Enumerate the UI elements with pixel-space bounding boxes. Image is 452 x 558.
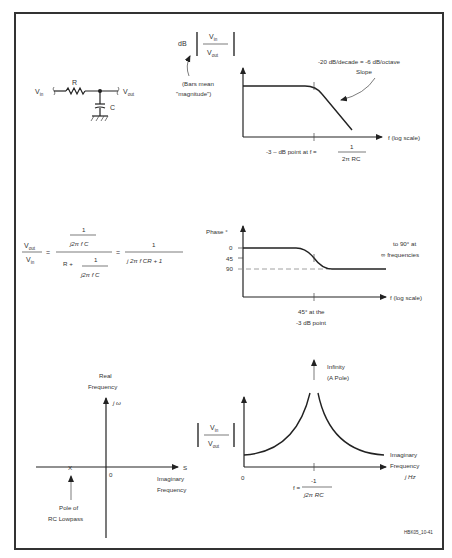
s-plane-title-line2: Frequency — [88, 383, 118, 390]
pole-x-line2: Frequency — [390, 462, 420, 469]
jw-label: j ω — [112, 399, 121, 406]
rc-lowpass-diagram: Vin R Vout C dB Vin Vout (Bars mean "mag… — [0, 0, 452, 558]
vout-label: Vout — [123, 88, 135, 97]
mid-den-den: j2π f C — [80, 271, 100, 278]
pole-x-line3: j Hz — [404, 473, 417, 480]
vin-label: Vin — [35, 88, 44, 97]
bars-note-line2: "magnitude") — [176, 90, 211, 97]
corner-den: 2π RC — [342, 155, 361, 162]
slope-arrow-icon — [341, 78, 375, 100]
equals-sign: = — [46, 249, 50, 256]
phase-y-label: Phase ° — [206, 228, 228, 235]
ratio-numerator: Vin — [209, 33, 218, 42]
phase-x-label: f (log scale) — [390, 294, 422, 301]
phase-note-line1: to 90° at — [393, 240, 416, 247]
infinity-line2: (A Pole) — [327, 374, 349, 381]
s-label: S — [183, 464, 187, 471]
phase-corner-line1: 45° at the — [298, 308, 325, 315]
phase-tick-90: 90 — [226, 265, 233, 272]
pole-label-line1: Pole of — [59, 504, 79, 511]
lhs-denominator: Vin — [26, 256, 35, 265]
pole-x-line1: Imaginary — [390, 451, 418, 458]
phase-tick-0: 0 — [229, 244, 233, 251]
mid-num-bottom: j2π f C — [69, 240, 89, 247]
phase-plot: Phase ° 0 45 90 to 90° at ∞ frequencies … — [206, 226, 422, 326]
corner-label: -3 – dB point at f = — [266, 148, 317, 155]
magnitude-response-curve — [243, 86, 352, 130]
lhs-numerator: Vout — [24, 242, 36, 251]
phase-tick-45: 45 — [226, 255, 233, 262]
pole-curve-left — [244, 393, 310, 455]
pole-num: -1 — [311, 477, 317, 484]
bars-note-line1: (Bars mean — [182, 80, 215, 87]
pole-curve-right — [318, 393, 384, 455]
pole-marker-icon: X — [68, 464, 72, 471]
pole-f-label: f = — [293, 484, 300, 491]
phase-corner-line2: -3 dB point — [296, 319, 326, 326]
magnitude-plot: dB Vin Vout (Bars mean "magnitude") -20 … — [176, 32, 420, 162]
db-label: dB — [178, 40, 187, 47]
s-plane-x-line1: Imaginary — [157, 475, 185, 482]
phase-note-line2: ∞ frequencies — [381, 251, 419, 258]
transfer-equation: Vout Vin = 1 j2π f C R + 1 j2π f C = 1 j… — [22, 226, 183, 278]
resistor-icon — [66, 88, 85, 94]
equals-sign-2: = — [116, 249, 120, 256]
s-plane-x-line2: Frequency — [157, 486, 187, 493]
origin-label: 0 — [109, 471, 113, 478]
rc-circuit: Vin R Vout C — [35, 79, 135, 121]
mid-den-prefix: R + — [63, 260, 73, 267]
pole-magnitude-plot: Vin Vout Infinity (A Pole) 0 Imaginary F… — [198, 360, 420, 498]
infinity-line1: Infinity — [327, 363, 346, 370]
ratio-denominator: Vout — [207, 49, 219, 58]
phase-response-curve — [243, 248, 386, 269]
s-plane: Real Frequency j ω S 0 Imaginary Frequen… — [36, 372, 187, 538]
capacitor-label: C — [110, 104, 115, 111]
bars-note-arrow-icon — [187, 56, 190, 76]
s-plane-title-line1: Real — [99, 372, 112, 379]
ground-icon — [91, 116, 108, 121]
pole-ratio-den: Vout — [208, 440, 220, 449]
corner-num: 1 — [350, 143, 354, 150]
pole-den: j2π RC — [303, 491, 324, 498]
mid-num-top: 1 — [82, 226, 86, 233]
mid-den-num: 1 — [94, 256, 98, 263]
resistor-label: R — [72, 79, 77, 86]
pole-label-line2: RC Lowpass — [48, 515, 83, 522]
pole-ratio-num: Vin — [210, 424, 219, 433]
magnitude-x-label: f (log scale) — [388, 134, 420, 141]
rhs-numerator: 1 — [152, 241, 156, 248]
rhs-denominator: j 2π f CR + 1 — [126, 257, 162, 264]
slope-line1: -20 dB/decade = -6 dB/octave — [318, 58, 401, 65]
pole-origin-label: 0 — [241, 474, 245, 481]
figure-id: HBK05_10-41 — [404, 530, 433, 535]
slope-line2: Slope — [356, 68, 372, 75]
